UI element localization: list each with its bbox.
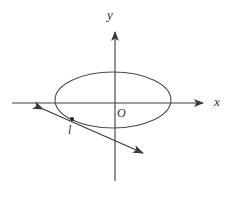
geometry-figure: y x O l [0, 0, 230, 197]
origin-label: O [117, 107, 126, 119]
marked-point [70, 117, 74, 121]
x-axis-label: x [214, 95, 220, 108]
line-l-label: l [68, 124, 71, 136]
y-axis-label: y [107, 8, 113, 21]
line-l [43, 109, 143, 153]
geometry-canvas [0, 0, 230, 197]
